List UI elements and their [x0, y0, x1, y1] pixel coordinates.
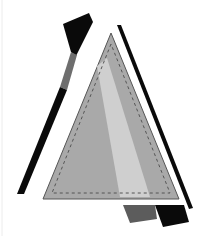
geometric-composition	[0, 0, 205, 236]
bottom-gray-block	[123, 205, 157, 223]
left-stripe-gray-segment	[60, 52, 77, 90]
bottom-black-block	[155, 205, 189, 227]
left-black-flag-shape	[63, 13, 93, 56]
artwork-canvas	[0, 0, 205, 236]
